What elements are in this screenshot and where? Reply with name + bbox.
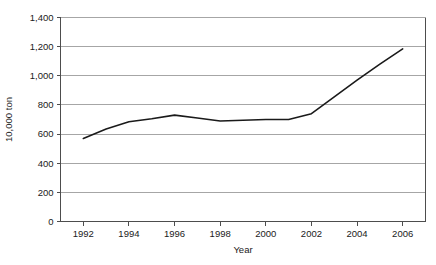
y-tick-label: 600 — [38, 128, 54, 139]
y-tick-label: 800 — [38, 99, 54, 110]
x-tick-label: 1992 — [73, 228, 94, 239]
x-tick-label: 2006 — [392, 228, 413, 239]
y-tick-label: 1,200 — [30, 41, 54, 52]
x-tick-label: 2002 — [301, 228, 322, 239]
y-tick-label: 200 — [38, 187, 54, 198]
x-tick-label: 2004 — [346, 228, 367, 239]
data-series-line — [83, 49, 402, 139]
y-tick-label: 1,000 — [30, 70, 54, 81]
y-tick-label-group: 02004006008001,0001,2001,400 — [30, 12, 61, 227]
x-tick-group — [83, 222, 402, 226]
x-tick-label-group: 19921994199619982000200220042006 — [73, 228, 414, 239]
y-tick-label: 1,400 — [30, 12, 54, 23]
y-tick-label: 400 — [38, 158, 54, 169]
x-tick-label: 1994 — [118, 228, 139, 239]
line-chart: 02004006008001,0001,2001,400 19921994199… — [0, 0, 436, 265]
x-tick-label: 2000 — [255, 228, 276, 239]
x-tick-label: 1998 — [210, 228, 231, 239]
y-axis-title: 10,000 ton — [3, 97, 14, 142]
x-tick-label: 1996 — [164, 228, 185, 239]
y-tick-label: 0 — [48, 216, 53, 227]
chart-canvas: 02004006008001,0001,2001,400 19921994199… — [0, 0, 436, 265]
x-axis-title: Year — [233, 244, 252, 255]
